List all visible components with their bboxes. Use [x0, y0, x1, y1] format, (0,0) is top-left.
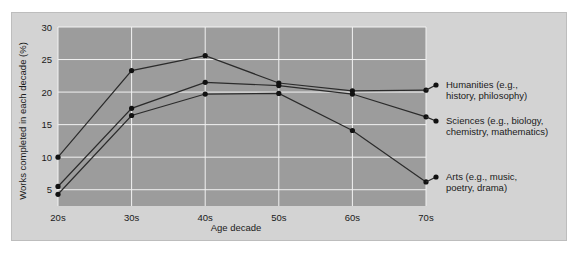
legend-marker — [433, 174, 438, 179]
data-point-marker — [203, 91, 208, 96]
legend-label-line2: history, philosophy) — [446, 90, 527, 101]
data-point-marker — [55, 184, 60, 189]
grid-layer — [58, 27, 426, 206]
data-point-marker — [55, 192, 60, 197]
legend-label-line2: chemistry, mathematics) — [446, 126, 548, 137]
chart-figure: 20s30s40s50s60s70s 51015202530 Humanitie… — [11, 12, 567, 241]
legend-marker — [433, 118, 438, 123]
chart-legend: Humanities (e.g.,history, philosophy)Sci… — [426, 79, 548, 193]
data-point-marker — [55, 155, 60, 160]
x-axis-tick-label: 20s — [50, 212, 66, 223]
y-axis-tick-label: 5 — [47, 184, 52, 195]
data-point-marker — [203, 80, 208, 85]
x-axis-tick-label: 50s — [271, 212, 287, 223]
data-point-marker — [203, 53, 208, 58]
x-axis-tick-label: 30s — [124, 212, 140, 223]
x-axis-tick-label: 60s — [345, 212, 361, 223]
x-axis-tick-label: 70s — [418, 212, 434, 223]
y-axis-tick-label: 25 — [41, 54, 52, 65]
data-point-marker — [129, 113, 134, 118]
legend-label-line2: poetry, drama) — [446, 182, 507, 193]
y-axis-tick-label: 10 — [41, 152, 52, 163]
y-axis-tick-label: 20 — [41, 87, 52, 98]
data-point-marker — [276, 91, 281, 96]
y-axis-tick-label: 15 — [41, 119, 52, 130]
data-point-marker — [423, 179, 428, 184]
plot-background — [58, 27, 426, 206]
legend-label-line1: Sciences (e.g., biology, — [446, 115, 544, 126]
data-point-marker — [350, 128, 355, 133]
data-point-marker — [129, 106, 134, 111]
data-point-marker — [350, 91, 355, 96]
legend-marker — [433, 82, 438, 87]
y-axis-tick-labels: 51015202530 — [41, 22, 52, 196]
legend-label-line1: Humanities (e.g., — [446, 79, 518, 90]
y-axis-title: Works completed in each decade (%) — [17, 42, 28, 200]
y-axis-tick-label: 30 — [41, 22, 52, 33]
line-chart: 20s30s40s50s60s70s 51015202530 Humanitie… — [12, 13, 566, 240]
data-point-marker — [129, 68, 134, 73]
data-point-marker — [276, 83, 281, 88]
data-point-marker — [423, 88, 428, 93]
x-axis-title: Age decade — [211, 222, 262, 233]
legend-label-line1: Arts (e.g., music, — [446, 171, 517, 182]
